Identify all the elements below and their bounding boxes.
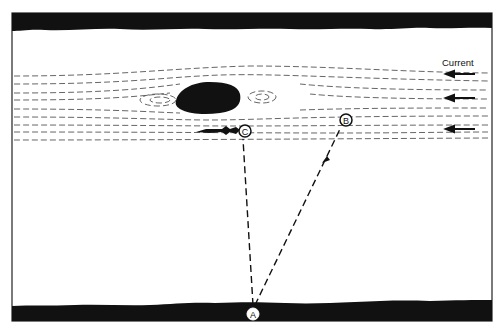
marker-a: A: [247, 308, 259, 320]
marker-b-label: B: [343, 116, 349, 126]
current-label: Current: [442, 57, 474, 68]
diagram-frame: [12, 13, 492, 321]
marker-a-label: A: [250, 310, 256, 320]
marker-c: C: [239, 125, 251, 137]
marker-b: B: [340, 114, 352, 126]
river-diagram: Current C B A: [0, 0, 504, 331]
marker-c-label: C: [242, 127, 249, 137]
